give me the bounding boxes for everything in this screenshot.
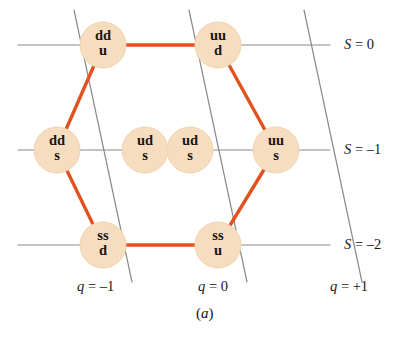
strangeness-value-s0: 0 bbox=[367, 36, 374, 52]
strangeness-value-sm1: –1 bbox=[367, 141, 382, 157]
figure-caption: (a) bbox=[196, 305, 214, 322]
charge-label-qp1: q = +1 bbox=[330, 278, 368, 295]
strangeness-equals-s0: = bbox=[351, 36, 366, 52]
quark-node-circle-uds-1[interactable] bbox=[122, 127, 168, 173]
quark-node-circle-ddu[interactable] bbox=[80, 22, 126, 68]
strangeness-label-sm1: S = –1 bbox=[344, 141, 381, 158]
strangeness-label-sm2: S = –2 bbox=[344, 236, 381, 253]
charge-equals-qm1: = bbox=[84, 278, 99, 294]
quark-node-circle-ssd[interactable] bbox=[80, 222, 126, 268]
charge-value-q0: 0 bbox=[221, 278, 228, 294]
charge-equals-qp1: = bbox=[337, 278, 352, 294]
quark-node-circle-uus[interactable] bbox=[253, 127, 299, 173]
charge-label-qm1: q = –1 bbox=[77, 278, 114, 295]
strangeness-value-sm2: –2 bbox=[367, 236, 382, 252]
strangeness-equals-sm2: = bbox=[351, 236, 366, 252]
quark-node-circle-uud[interactable] bbox=[195, 22, 241, 68]
charge-label-q0: q = 0 bbox=[198, 278, 228, 295]
baryon-octet-figure: dduuudddsudsudsuusssdssu S = 0S = –1S = … bbox=[0, 0, 417, 341]
charge-value-qp1: +1 bbox=[353, 278, 368, 294]
strangeness-equals-sm1: = bbox=[351, 141, 366, 157]
caption-letter: a bbox=[201, 305, 209, 321]
charge-value-qm1: –1 bbox=[100, 278, 115, 294]
quark-node-circle-ssu[interactable] bbox=[195, 222, 241, 268]
strangeness-label-s0: S = 0 bbox=[344, 36, 374, 53]
charge-equals-q0: = bbox=[205, 278, 220, 294]
quark-node-circle-dds[interactable] bbox=[34, 127, 80, 173]
caption-close-paren: ) bbox=[209, 305, 214, 321]
quark-node-circle-uds-2[interactable] bbox=[167, 127, 213, 173]
